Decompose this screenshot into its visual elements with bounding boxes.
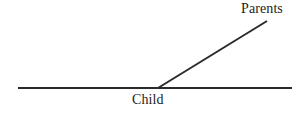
ascending-ray-segment bbox=[158, 21, 267, 88]
parents-label: Parents bbox=[241, 2, 283, 16]
angle-diagram: Parents Child bbox=[0, 0, 308, 118]
child-label: Child bbox=[132, 93, 164, 107]
